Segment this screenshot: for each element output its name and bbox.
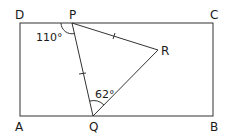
- side-pr: [72, 23, 158, 50]
- geometry-diagram: D P C R A Q B 110° 62°: [0, 0, 229, 135]
- angle-arc-pqr: [90, 101, 104, 105]
- tick-mark-pq: [79, 73, 86, 74]
- label-r: R: [161, 44, 169, 58]
- side-qr: [93, 50, 158, 116]
- label-a: A: [15, 120, 24, 134]
- label-c: C: [210, 8, 218, 22]
- label-q: Q: [89, 120, 98, 134]
- angle-label-62: 62°: [95, 88, 115, 101]
- side-pq: [72, 23, 93, 116]
- angle-label-110: 110°: [36, 31, 63, 44]
- label-d: D: [15, 8, 24, 22]
- label-b: B: [210, 120, 218, 134]
- label-p: P: [69, 8, 76, 22]
